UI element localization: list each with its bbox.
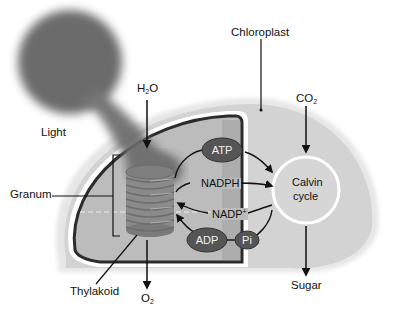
pi-label: Pi xyxy=(237,235,257,246)
co2-label: CO2 xyxy=(296,93,317,105)
chloroplast-diagram: Light Chloroplast Granum Thylakoid H2O O… xyxy=(0,0,398,318)
water-label: H2O xyxy=(137,83,158,95)
thylakoid-label: Thylakoid xyxy=(70,286,119,298)
diagram-canvas xyxy=(0,0,398,318)
granum-label: Granum xyxy=(10,189,52,201)
sugar-label: Sugar xyxy=(291,280,322,292)
chloroplast-label: Chloroplast xyxy=(231,27,289,39)
oxygen-label: O2 xyxy=(141,293,154,305)
calvin-cycle-label-line2: cycle xyxy=(293,191,318,202)
nadph-label: NADPH xyxy=(200,178,241,189)
light-label: Light xyxy=(41,127,66,139)
granum-stack xyxy=(126,165,174,237)
adp-label: ADP xyxy=(187,235,227,246)
calvin-cycle-label-line1: Calvin xyxy=(292,177,323,188)
nadp-label: NADP+ xyxy=(211,208,248,220)
atp-label: ATP xyxy=(202,145,242,156)
